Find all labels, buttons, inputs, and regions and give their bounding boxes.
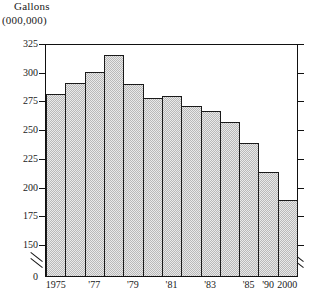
y-tick-mark-right [298,130,304,131]
y-tick-mark [39,188,45,189]
bar [85,72,105,276]
x-tick-label: '77 [74,279,114,290]
x-tick-label: 2000 [267,279,307,290]
bar [123,84,143,276]
x-tick-label: 1975 [36,279,76,290]
bar-chart-figure: Gallons (000,000) 3253002752502252001751… [0,0,331,300]
y-tick-mark-right [298,159,304,160]
x-tick-label: '79 [113,279,153,290]
bar [143,98,163,276]
bar [220,122,240,276]
y-tick-mark [39,101,45,102]
y-tick-label: 300 [23,68,38,78]
y-tick-mark [39,245,45,246]
y-tick-mark [39,44,45,45]
y-tick-mark-right [298,101,304,102]
y-tick-mark [39,73,45,74]
y-tick-mark-right [298,188,304,189]
y-tick-mark [39,159,45,160]
y-axis-title-line2: (000,000) [2,14,47,27]
y-tick-mark-right [298,245,304,246]
y-tick-mark [39,216,45,217]
x-tick-label: '81 [152,279,192,290]
bar [201,111,221,276]
y-tick-label: 200 [23,183,38,193]
bar [104,55,124,277]
x-tick-label: '83 [190,279,230,290]
bar [65,83,85,276]
bar [46,94,66,276]
bar [239,143,259,276]
y-axis-break-left [31,252,45,266]
bar [181,106,201,276]
bar-series [46,45,297,276]
bar [278,200,298,276]
y-tick-label: 325 [23,39,38,49]
y-tick-mark-right [298,44,304,45]
y-tick-mark [39,130,45,131]
y-tick-label: 275 [23,96,38,106]
y-tick-label: 150 [23,240,38,250]
y-tick-mark-right [298,73,304,74]
y-tick-label: 225 [23,154,38,164]
y-tick-mark-right [298,216,304,217]
y-tick-label: 175 [23,211,38,221]
bar [162,96,182,276]
y-axis-title-line1: Gallons [14,0,50,13]
y-tick-label: 250 [23,125,38,135]
bar [258,172,278,276]
